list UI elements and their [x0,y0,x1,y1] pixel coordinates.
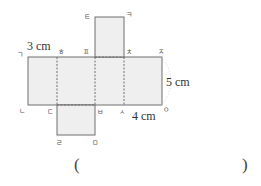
vertex-label-flap-top-right: ㅋ [126,11,132,19]
top-flap [95,17,124,57]
vertex-label-top-right: ㅈ [158,48,164,56]
dimension-width-label: 3 cm [27,39,51,53]
dimension-length-label: 4 cm [132,109,156,123]
vertex-label-bottom-2: ㅂ [97,108,103,116]
answer-open-paren: ( [74,155,80,174]
prism-net-diagram: ㄱ ㅎ ㅍ ㅊ ㅈ ㅌ ㅋ ㄴ ㄷ ㅂ ㅅ ㅇ ㄹ ㅁ 3 cm 5 cm 4 … [0,0,261,186]
vertex-label-bottom-left: ㄴ [19,107,25,115]
vertex-label-top-2: ㅍ [83,48,89,56]
dimension-height-label: 5 cm [166,75,190,89]
answer-close-paren: ) [242,155,248,174]
vertex-label-flap-bottom-right: ㅁ [92,139,98,147]
vertex-label-top-3: ㅊ [126,48,132,56]
vertex-label-bottom-right: ㅇ [163,106,169,114]
vertex-label-flap-top-left: ㅌ [84,13,90,21]
vertex-label-bottom-1: ㄷ [47,108,53,116]
bottom-flap [57,105,95,135]
vertex-label-top-1: ㅎ [58,48,64,56]
vertex-label-bottom-3: ㅅ [119,108,125,116]
vertex-label-top-left: ㄱ [17,51,23,59]
vertex-label-flap-bottom-left: ㄹ [56,139,62,147]
